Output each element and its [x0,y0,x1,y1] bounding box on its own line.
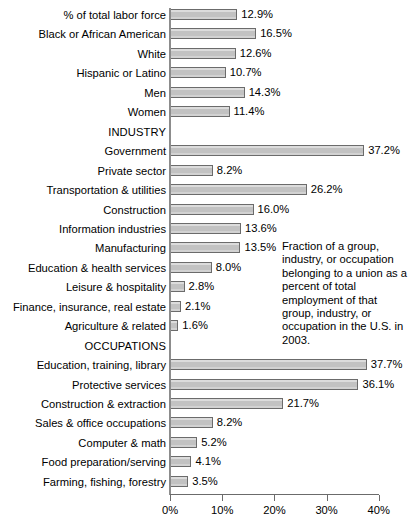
bar-value-label: 12.6% [240,46,272,61]
bar-category-label: Government [5,144,170,159]
bar-value-label: 12.9% [241,7,273,22]
bar-value-label: 16.0% [258,202,290,217]
bar-category-label: Manufacturing [5,241,170,256]
bar [170,67,226,78]
bar [170,204,254,215]
bar [170,417,213,428]
bar-category-label: Agriculture & related [5,319,170,334]
bar [170,165,213,176]
bar-value-label: 36.1% [362,377,394,392]
bar-category-label: White [5,47,170,62]
bar-category-label: Protective services [5,378,170,393]
bar [170,398,283,409]
bar-category-label: Women [5,105,170,120]
bar-value-label: 5.2% [201,435,227,450]
bar-category-label: Food preparation/serving [5,455,170,470]
bar [170,223,241,234]
bar [170,106,230,117]
bar-category-label: Men [5,86,170,101]
bar-category-label: Sales & office occupations [5,416,170,431]
bar-value-label: 21.7% [287,396,319,411]
bar-category-label: Construction & extraction [5,397,170,412]
bar-category-label: Finance, insurance, real estate [5,300,170,315]
bar-value-label: 13.5% [244,240,276,255]
x-axis-tick-label: 10% [202,503,242,517]
x-axis-tick-label: 30% [307,503,347,517]
x-axis-tick [170,495,171,501]
bar-category-label: Leisure & hospitality [5,280,170,295]
bar [170,281,185,292]
bar-category-label: Construction [5,203,170,218]
bar [170,184,307,195]
bar-value-label: 37.7% [371,357,403,372]
bar-category-label: Computer & math [5,436,170,451]
bar-value-label: 14.3% [249,85,281,100]
bar-value-label: 3.5% [192,474,218,489]
bar [170,301,181,312]
x-axis-tick [274,495,275,501]
bar-category-label: Hispanic or Latino [5,66,170,81]
x-axis-tick-label: 40% [359,503,399,517]
x-axis-tick [327,495,328,501]
bar-category-label: Farming, fishing, forestry [5,475,170,490]
bar [170,28,256,39]
bar-value-label: 16.5% [260,26,292,41]
chart-annotation-text: Fraction of a group, industry, or occupa… [282,240,410,347]
bar-value-label: 37.2% [368,143,400,158]
y-axis-line [169,8,171,495]
section-header-label: OCCUPATIONS [5,339,170,354]
bar [170,242,240,253]
bar-value-label: 26.2% [311,182,343,197]
x-axis-tick [222,495,223,501]
bar [170,320,178,331]
union-membership-bar-chart: % of total labor force12.9%Black or Afri… [0,0,411,525]
bar [170,437,197,448]
x-axis-tick [379,495,380,501]
bar-category-label: Information industries [5,222,170,237]
bar-value-label: 10.7% [230,65,262,80]
bar-value-label: 4.1% [195,454,221,469]
bar-value-label: 2.8% [189,279,215,294]
bar [170,262,212,273]
bar-value-label: 8.2% [217,415,243,430]
bar-value-label: 8.2% [217,163,243,178]
bar-category-label: Education & health services [5,261,170,276]
x-axis-tick-label: 20% [254,503,294,517]
bar [170,48,236,59]
bar [170,145,364,156]
bar-category-label: Transportation & utilities [5,183,170,198]
bar-value-label: 11.4% [234,104,265,119]
bar-category-label: Black or African American [5,27,170,42]
bar-category-label: Education, training, library [5,358,170,373]
bar [170,456,191,467]
bar [170,476,188,487]
bar-category-label: Private sector [5,164,170,179]
bar-value-label: 2.1% [185,299,211,314]
bar-value-label: 1.6% [182,318,208,333]
bar [170,359,367,370]
bar [170,9,237,20]
bar-value-label: 13.6% [245,221,277,236]
section-header-label: INDUSTRY [5,125,170,140]
bar [170,87,245,98]
bar-value-label: 8.0% [216,260,242,275]
x-axis-tick-label: 0% [150,503,190,517]
bar [170,379,358,390]
bar-category-label: % of total labor force [5,8,170,23]
